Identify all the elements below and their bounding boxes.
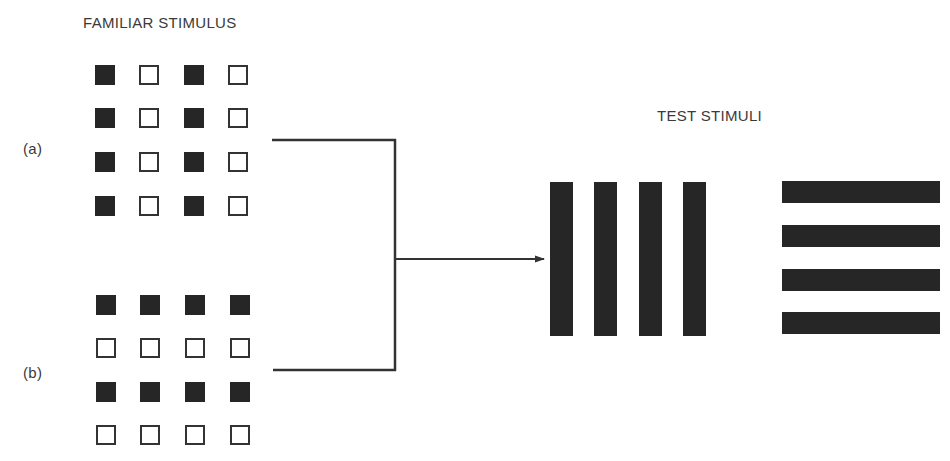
vertical-bar xyxy=(594,182,617,336)
horizontal-bar xyxy=(782,312,940,334)
vertical-bar xyxy=(683,182,706,336)
vertical-bar xyxy=(639,182,662,336)
horizontal-bar xyxy=(782,225,940,247)
vertical-bar xyxy=(550,182,573,336)
horizontal-bar xyxy=(782,181,940,203)
horizontal-bar xyxy=(782,269,940,291)
